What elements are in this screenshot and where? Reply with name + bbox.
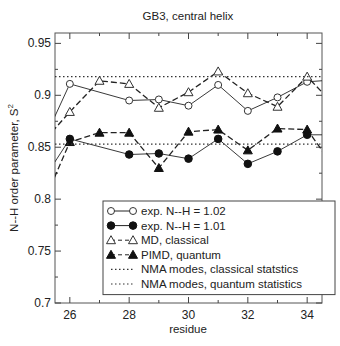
point-pimd-quantum — [125, 128, 134, 136]
legend-swatch-marker — [107, 222, 115, 230]
point-md-classical — [184, 88, 193, 96]
x-tick-label: 32 — [241, 308, 255, 322]
point-pimd-quantum — [214, 125, 223, 133]
y-tick-label: 0.7 — [34, 296, 51, 310]
legend-label: PIMD, quantum — [141, 249, 221, 261]
legend-label: exp. N--H = 1.02 — [141, 205, 226, 217]
x-tick-label: 30 — [182, 308, 196, 322]
point-exp-n-h-1-01 — [274, 148, 282, 156]
point-md-classical — [95, 76, 104, 84]
y-tick-label: 0.95 — [28, 36, 52, 50]
point-exp-n-h-1-01 — [214, 135, 222, 143]
point-exp-n-h-1-02 — [126, 97, 133, 104]
point-md-classical — [154, 103, 163, 111]
x-tick-label: 26 — [63, 308, 77, 322]
chart-container: GB3, central helix 2628303234 0.70.750.8… — [0, 0, 340, 346]
y-tick-label: 0.75 — [28, 244, 52, 258]
point-exp-n-h-1-01 — [244, 160, 252, 168]
point-exp-n-h-1-02 — [215, 81, 222, 88]
point-exp-n-h-1-01 — [155, 150, 163, 158]
y-axis-label-group: N--H order parameter, S2 — [6, 104, 20, 232]
legend-swatch-marker — [130, 208, 137, 215]
y-axis-label: N--H order parameter, S2 — [6, 104, 20, 232]
point-exp-n-h-1-02 — [185, 102, 192, 109]
legend-label: MD, classical — [141, 234, 209, 246]
series-exp-n-h-1-01 — [40, 131, 337, 185]
point-exp-n-h-1-01 — [125, 151, 133, 159]
point-pimd-quantum — [154, 164, 163, 172]
series-pimd-quantum — [40, 124, 337, 211]
point-exp-n-h-1-02 — [66, 80, 73, 87]
legend-label: NMA modes, quantum statistics — [141, 278, 302, 290]
point-exp-n-h-1-02 — [244, 107, 251, 114]
y-tick-label: 0.9 — [34, 88, 51, 102]
x-axis-label: residue — [169, 323, 207, 335]
point-md-classical — [125, 79, 134, 87]
y-axis-label-text: N--H order parameter, S — [8, 108, 20, 232]
legend: exp. N--H = 1.02exp. N--H = 1.01MD, clas… — [103, 201, 335, 295]
point-pimd-quantum — [303, 125, 312, 133]
point-exp-n-h-1-02 — [155, 96, 162, 103]
point-pimd-quantum — [243, 146, 252, 154]
y-axis-label-superscript: 2 — [6, 104, 15, 109]
x-tick-label: 28 — [122, 308, 136, 322]
point-md-classical — [214, 67, 223, 75]
x-tick-label: 34 — [300, 308, 314, 322]
y-tick-label: 0.85 — [28, 140, 52, 154]
legend-swatch-marker — [108, 208, 115, 215]
chart-svg: GB3, central helix 2628303234 0.70.750.8… — [0, 0, 340, 346]
legend-label: exp. N--H = 1.01 — [141, 220, 226, 232]
point-pimd-quantum — [184, 127, 193, 135]
point-md-classical — [243, 89, 252, 97]
chart-title: GB3, central helix — [143, 10, 234, 22]
line-pimd-quantum — [40, 129, 337, 211]
legend-label: NMA modes, classical statstics — [141, 263, 298, 275]
point-exp-n-h-1-01 — [185, 155, 193, 163]
point-exp-n-h-1-02 — [274, 94, 281, 101]
series-layer — [40, 67, 337, 211]
legend-swatch-marker — [129, 222, 137, 230]
y-tick-label: 0.8 — [34, 192, 51, 206]
